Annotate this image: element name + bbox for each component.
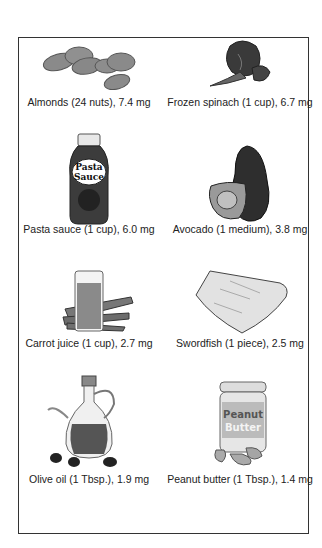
- food-label: Carrot juice (1 cup), 2.7 mg: [8, 337, 170, 349]
- avocado-icon: [165, 130, 315, 226]
- peanut-butter-jar-icon: Peanut Butter: [165, 372, 315, 468]
- food-item-swordfish: Swordfish (1 piece), 2.5 mg: [165, 263, 315, 387]
- almonds-icon: [14, 40, 164, 90]
- pasta-sauce-jar-icon: Pasta Sauce: [14, 130, 164, 226]
- food-label: Olive oil (1 Tbsp.), 1.9 mg: [8, 473, 170, 485]
- food-item-olive-oil: Olive oil (1 Tbsp.), 1.9 mg: [14, 372, 164, 496]
- jar-text-line-1: Pasta: [75, 162, 103, 172]
- jar-text-line-2: Butter: [225, 422, 261, 433]
- food-label: Swordfish (1 piece), 2.5 mg: [159, 337, 321, 349]
- food-item-pasta-sauce: Pasta Sauce Pasta sauce (1 cup), 6.0 mg: [14, 130, 164, 254]
- swordfish-icon: [165, 263, 315, 335]
- jar-text-line-2: Sauce: [74, 172, 104, 182]
- food-label: Frozen spinach (1 cup), 6.7 mg: [159, 96, 321, 108]
- spinach-icon: [165, 40, 315, 90]
- food-item-peanut-butter: Peanut Butter Peanut butter (1 Tbsp.), 1…: [165, 372, 315, 496]
- olive-oil-icon: [14, 372, 164, 468]
- carrot-juice-icon: [14, 263, 164, 335]
- food-item-carrot-juice: Carrot juice (1 cup), 2.7 mg: [14, 263, 164, 387]
- food-item-avocado: Avocado (1 medium), 3.8 mg: [165, 130, 315, 254]
- food-label: Almonds (24 nuts), 7.4 mg: [8, 96, 170, 108]
- food-label: Peanut butter (1 Tbsp.), 1.4 mg: [159, 473, 321, 485]
- food-label: Pasta sauce (1 cup), 6.0 mg: [8, 223, 170, 235]
- food-label: Avocado (1 medium), 3.8 mg: [159, 223, 321, 235]
- jar-text-line-1: Peanut: [223, 409, 263, 420]
